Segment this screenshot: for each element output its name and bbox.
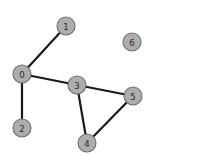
- graph-node-3[interactable]: 3: [68, 76, 86, 94]
- graph-node-label-1: 1: [63, 22, 68, 32]
- graph-node-4[interactable]: 4: [78, 134, 96, 152]
- graph-node-label-2: 2: [19, 124, 24, 134]
- graph-edge-0-1: [22, 26, 66, 74]
- node-layer: 0123456: [13, 17, 142, 152]
- graph-node-label-4: 4: [84, 139, 89, 149]
- graph-node-label-3: 3: [74, 81, 79, 91]
- graph-node-6[interactable]: 6: [123, 33, 141, 51]
- graph-node-label-0: 0: [19, 70, 24, 80]
- graph-node-label-5: 5: [130, 92, 135, 102]
- graph-canvas: 0123456: [0, 0, 210, 162]
- graph-node-5[interactable]: 5: [124, 87, 142, 105]
- graph-diagram: 0123456: [0, 0, 210, 162]
- graph-node-label-6: 6: [129, 38, 134, 48]
- graph-node-1[interactable]: 1: [57, 17, 75, 35]
- graph-node-0[interactable]: 0: [13, 65, 31, 83]
- graph-edge-4-5: [87, 96, 133, 143]
- graph-node-2[interactable]: 2: [13, 119, 31, 137]
